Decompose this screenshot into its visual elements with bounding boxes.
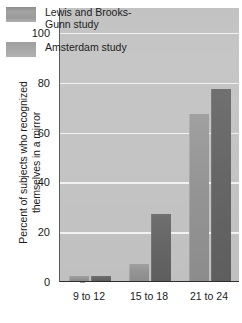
y-axis-tick-label: 40 [38, 176, 50, 188]
bar [129, 264, 149, 281]
y-axis-tick-label: 20 [38, 226, 50, 238]
x-axis-tick-label: 21 to 24 [190, 290, 228, 302]
legend-swatch [6, 42, 36, 57]
bar [91, 276, 111, 281]
bar-chart-figure: Percent of subjects who recognized thems… [0, 0, 242, 323]
x-axis-tick-label: 15 to 18 [130, 290, 168, 302]
chart-legend: Lewis and Brooks- Gunn studyAmsterdam st… [6, 6, 178, 68]
bar [211, 89, 231, 281]
x-axis-tick-labels: 9 to 1215 to 1821 to 24 [59, 290, 239, 310]
bar [69, 276, 89, 281]
y-axis-tick-label: 80 [38, 77, 50, 89]
x-axis-tick-label: 9 to 12 [73, 290, 105, 302]
legend-swatch [6, 7, 36, 22]
legend-entry: Lewis and Brooks- Gunn study [6, 6, 178, 30]
bar [151, 214, 171, 281]
y-axis-tick-label: 0 [44, 276, 50, 288]
legend-label: Amsterdam study [45, 41, 127, 53]
bar [189, 114, 209, 281]
y-axis-tick-label: 60 [38, 127, 50, 139]
legend-entry: Amsterdam study [6, 41, 178, 57]
legend-label: Lewis and Brooks- Gunn study [45, 6, 131, 30]
